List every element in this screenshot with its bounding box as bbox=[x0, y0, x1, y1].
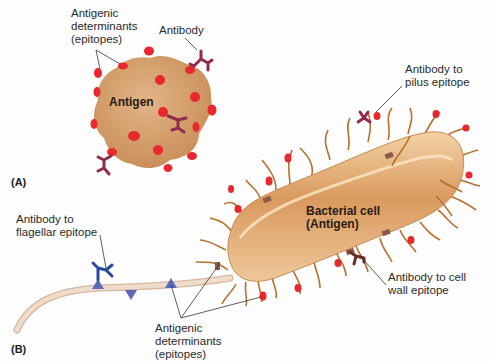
antibody-label-a: Antibody bbox=[159, 24, 204, 37]
pilus-antibody-label: Antibody topilus epitope bbox=[405, 63, 470, 89]
flagellar-antibody-label: Antibody toflagellar epitope bbox=[16, 213, 97, 239]
epitopes-label-b: Antigenicdeterminants(epitopes) bbox=[155, 322, 221, 361]
panel-label-b: (B) bbox=[11, 343, 26, 355]
flagellar-antibody-icon bbox=[93, 263, 112, 280]
cell-wall-antibody-icon bbox=[350, 252, 364, 264]
bacterial-cell-label: Bacterial cell(Antigen) bbox=[306, 205, 380, 231]
panel-label-a: (A) bbox=[11, 176, 26, 188]
diagram-artwork bbox=[0, 0, 494, 361]
antigen-antibody-diagram: Antigenicdeterminants(epitopes) Antibody… bbox=[0, 0, 494, 361]
epitopes-label-a: Antigenicdeterminants(epitopes) bbox=[71, 7, 137, 46]
cell-wall-antibody-label: Antibody to cellwall epitope bbox=[388, 271, 466, 297]
pilus-antibody-icon bbox=[358, 112, 370, 122]
antigen-label: Antigen bbox=[109, 96, 154, 109]
antigen-particle bbox=[91, 47, 217, 173]
